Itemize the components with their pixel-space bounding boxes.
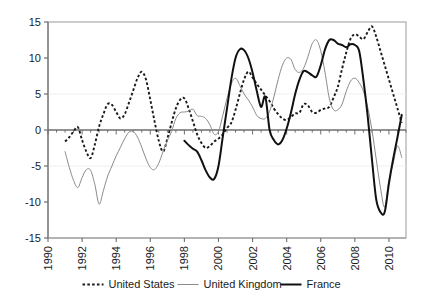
y-tick-label-4: -5: [31, 160, 41, 172]
x-tick-label-0: 1990: [42, 246, 54, 270]
y-tick-label-6: -15: [25, 232, 41, 244]
legend-label-1: United Kingdom: [204, 278, 282, 290]
x-tick-label-2: 1994: [110, 246, 122, 270]
x-tick-label-8: 2006: [315, 246, 327, 270]
x-tick-label-4: 1998: [178, 246, 190, 270]
x-tick-label-5: 2000: [212, 246, 224, 270]
x-tick-label-6: 2002: [247, 246, 259, 270]
x-tick-label-1: 1992: [76, 246, 88, 270]
x-tick-label-9: 2008: [349, 246, 361, 270]
legend-label-2: France: [307, 278, 341, 290]
y-tick-label-1: 10: [29, 52, 41, 64]
x-tick-label-7: 2004: [281, 246, 293, 270]
legend-label-0: United States: [109, 278, 176, 290]
y-tick-label-3: 0: [35, 124, 41, 136]
y-tick-label-0: 15: [29, 16, 41, 28]
x-tick-label-10: 2010: [383, 246, 395, 270]
chart-container: 151050-5-10-15 1990199219941996199820002…: [0, 0, 425, 308]
y-tick-label-5: -10: [25, 196, 41, 208]
y-tick-label-2: 5: [35, 88, 41, 100]
line-chart: 151050-5-10-15 1990199219941996199820002…: [0, 0, 425, 308]
x-tick-label-3: 1996: [144, 246, 156, 270]
